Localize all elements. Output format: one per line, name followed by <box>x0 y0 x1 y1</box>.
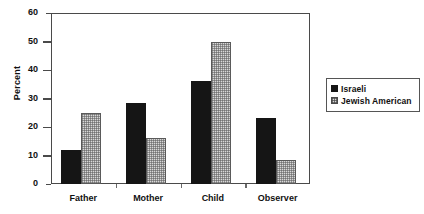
bar-mother-israeli <box>126 103 146 184</box>
legend-swatch-israeli-icon <box>331 85 338 92</box>
bars-layer <box>51 13 310 184</box>
x-tick-mark <box>116 184 118 188</box>
legend: Israeli Jewish American <box>326 78 420 112</box>
legend-item-israeli: Israeli <box>331 83 415 94</box>
y-tick-label: 10 <box>28 150 38 160</box>
y-tick-label: 30 <box>28 93 38 103</box>
legend-swatch-jewish-american-icon <box>331 97 338 104</box>
x-category-label-observer: Observer <box>258 193 298 203</box>
bar-mother-jewish-american <box>146 138 166 184</box>
legend-label-jewish-american: Jewish American <box>341 96 412 106</box>
x-axis: FatherMotherChildObserver <box>51 184 310 214</box>
y-tick-label: 60 <box>28 7 38 17</box>
y-axis: 0102030405060 <box>0 0 51 214</box>
bar-child-israeli <box>191 81 211 184</box>
x-category-label-father: Father <box>70 193 98 203</box>
bar-observer-israeli <box>256 118 276 184</box>
bar-chart: Percent 0102030405060 FatherMotherChildO… <box>0 0 424 214</box>
x-tick-mark <box>245 184 247 188</box>
y-tick-label: 20 <box>28 121 38 131</box>
y-tick-label: 50 <box>28 36 38 46</box>
bar-father-jewish-american <box>81 113 101 184</box>
bar-observer-jewish-american <box>276 160 296 184</box>
y-tick-mark <box>43 155 51 157</box>
x-category-label-child: Child <box>202 193 225 203</box>
x-tick-mark <box>181 184 183 188</box>
bar-child-jewish-american <box>211 42 231 185</box>
y-tick-mark <box>43 70 51 72</box>
x-category-label-mother: Mother <box>133 193 163 203</box>
y-tick-mark <box>43 98 51 100</box>
y-tick-mark <box>43 41 51 43</box>
bar-father-israeli <box>61 150 81 184</box>
legend-label-israeli: Israeli <box>341 84 366 94</box>
y-tick-label: 40 <box>28 64 38 74</box>
legend-item-jewish-american: Jewish American <box>331 95 415 106</box>
y-tick-mark <box>43 127 51 129</box>
y-tick-label: 0 <box>33 178 38 188</box>
